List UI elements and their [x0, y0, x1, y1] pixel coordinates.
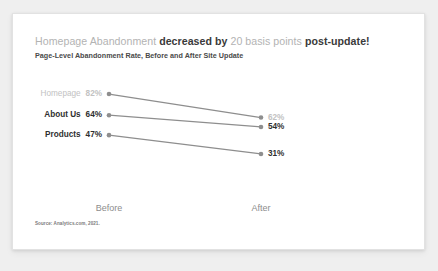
series-value-before: 82%	[86, 89, 102, 98]
slopegraph-plot: Homepage82%62%About Us64%54%Products47%3…	[13, 14, 426, 251]
source-note: Source: Analytics.com, 2021.	[35, 221, 100, 226]
series-value-before: 64%	[86, 110, 102, 119]
slope-line	[109, 115, 261, 127]
slope-marker	[107, 92, 112, 97]
series-name: About Us	[44, 110, 80, 119]
screenshot-root: Homepage Abandonment decreased by 20 bas…	[0, 0, 438, 271]
slope-marker	[107, 113, 112, 118]
slope-line	[109, 135, 261, 154]
chart-card: Homepage Abandonment decreased by 20 bas…	[12, 13, 425, 250]
slope-line	[109, 94, 261, 117]
slope-label-left: Products47%	[45, 130, 102, 140]
slope-marker	[259, 115, 264, 120]
series-value-after: 62%	[268, 113, 284, 122]
series-value-after: 31%	[268, 149, 284, 158]
axis-label-after: After	[251, 203, 270, 213]
series-value-after: 54%	[268, 122, 284, 131]
slope-marker	[259, 125, 264, 130]
series-name: Products	[45, 130, 81, 139]
slope-label-left: About Us64%	[44, 110, 102, 120]
slope-label-right: 54%	[268, 122, 284, 132]
slope-marker	[259, 152, 264, 157]
slope-label-left: Homepage82%	[41, 89, 102, 99]
series-value-before: 47%	[86, 130, 102, 139]
slope-marker	[107, 133, 112, 138]
slope-label-right: 31%	[268, 149, 284, 159]
series-name: Homepage	[41, 89, 81, 98]
axis-label-before: Before	[96, 203, 123, 213]
